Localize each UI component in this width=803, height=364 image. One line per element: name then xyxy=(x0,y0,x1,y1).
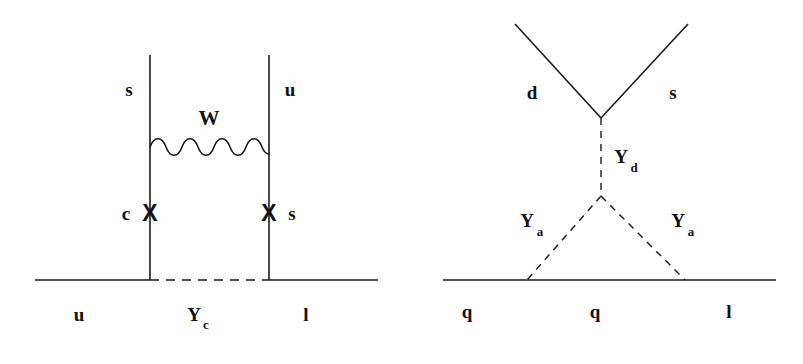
label-incoming-d: d xyxy=(527,82,538,103)
w-boson-wavy-line xyxy=(150,139,269,156)
mass-insertion-cross-right: X xyxy=(261,200,277,226)
incoming-d-quark-line xyxy=(515,24,601,118)
label-bottom-middle-Y-subscript: c xyxy=(203,317,209,332)
label-right-leg-Ya: Y a xyxy=(671,210,695,239)
incoming-s-quark-line xyxy=(601,24,688,118)
label-left-Ya-subscript: a xyxy=(537,224,544,239)
label-bottom-left-u: u xyxy=(74,304,85,325)
left-diagram-group: X X s u W c s u Y c l xyxy=(35,55,378,332)
label-left-Ya-main: Y xyxy=(520,210,534,231)
label-incoming-s: s xyxy=(669,82,676,103)
label-bottom-middle-Y-main: Y xyxy=(187,304,201,325)
mass-insertion-cross-left: X xyxy=(142,200,158,226)
label-bottom-right-l: l xyxy=(303,304,308,325)
label-bottom-middle-Yc: Y c xyxy=(187,304,209,332)
label-left-mid-quark-c: c xyxy=(122,203,130,224)
label-bottom-right-l: l xyxy=(726,301,731,322)
label-top-right-quark-u: u xyxy=(285,79,296,100)
label-right-mid-quark-s: s xyxy=(288,203,295,224)
label-vertical-propagator-Yd: Y d xyxy=(614,146,638,175)
label-bottom-middle-q: q xyxy=(590,301,601,322)
label-left-leg-Ya: Y a xyxy=(520,210,544,239)
label-Yd-subscript: d xyxy=(630,160,638,175)
feynman-figure: X X s u W c s u Y c l xyxy=(0,0,803,364)
label-top-left-quark-s: s xyxy=(125,79,132,100)
diagram-canvas: X X s u W c s u Y c l xyxy=(0,0,803,364)
label-Yd-main: Y xyxy=(614,146,628,167)
right-dashed-leg-Ya xyxy=(601,196,685,280)
label-w-boson: W xyxy=(199,106,220,130)
label-right-Ya-subscript: a xyxy=(688,224,695,239)
right-diagram-group: d s Y d Y a Y a q q l xyxy=(443,24,776,322)
label-right-Ya-main: Y xyxy=(671,210,685,231)
label-bottom-left-q: q xyxy=(462,301,473,322)
